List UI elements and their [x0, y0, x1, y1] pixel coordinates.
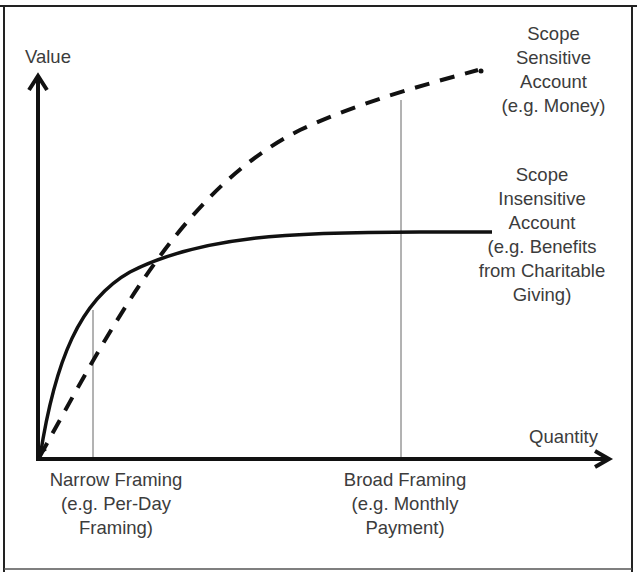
scope-sensitive-curve: [40, 70, 478, 456]
curve-end-dot: [479, 69, 484, 74]
scope-sensitive-label: Scope Sensitive Account (e.g. Money): [486, 22, 621, 118]
broad-framing-label: Broad Framing (e.g. Monthly Payment): [330, 468, 480, 540]
x-axis: [36, 451, 609, 467]
y-axis-label: Value: [25, 45, 71, 69]
scope-insensitive-curve: [40, 232, 492, 457]
narrow-framing-label: Narrow Framing (e.g. Per-Day Framing): [26, 468, 206, 540]
x-axis-label: Quantity: [529, 425, 598, 449]
y-axis: [29, 76, 47, 460]
scope-insensitive-label: Scope Insensitive Account (e.g. Benefits…: [462, 163, 622, 307]
